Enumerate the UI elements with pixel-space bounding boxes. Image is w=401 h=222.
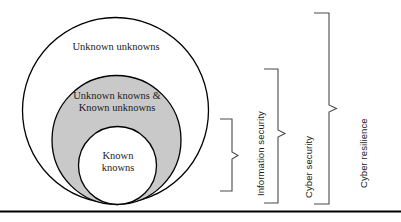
venn-bracket-diagram: Unknown unknowns Unknown knowns & Known … <box>0 0 401 222</box>
circle-known-knowns <box>79 127 157 205</box>
bracket-cyber-resilience <box>315 13 337 204</box>
bracket-information-security <box>221 119 239 191</box>
bracket-cyber-security <box>265 69 286 203</box>
diagram-vector-layer <box>0 0 401 222</box>
